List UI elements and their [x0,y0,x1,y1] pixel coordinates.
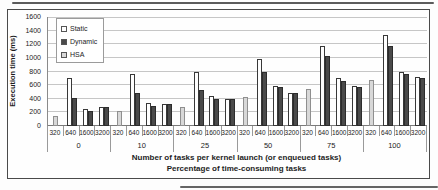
legend-item-dynamic: Dynamic [61,35,103,48]
x-slot-label: 3200 [158,128,174,138]
x-axis-caption-line2: Percentage of time-consuming tasks [47,164,426,173]
bar-10-320-hsa [117,111,122,126]
x-slot-label: 640 [252,128,268,138]
bar-100-1600-dynamic [404,74,409,126]
y-tick-label-1600: 1600 [25,13,41,21]
bar-25-3200-dynamic [230,99,235,126]
legend: StaticDynamicHSA [56,18,104,63]
x-slot-label: 1600 [205,128,221,138]
x-slot-label: 1600 [268,128,284,138]
x-slot-label: 3200 [410,128,426,138]
legend-swatch-static-icon [61,26,67,32]
x-slot-label: 3200 [94,128,110,138]
x-slot-label: 1600 [79,128,95,138]
plot-area [47,17,427,126]
y-tick-label-400: 400 [29,95,41,103]
x-slot-label: 320 [300,128,316,138]
y-tick-label-1200: 1200 [25,40,41,48]
bar-75-1600-dynamic [341,81,346,126]
x-axis-caption-line1: Number of tasks per kernel launch (or en… [47,153,426,162]
y-tick-label-600: 600 [29,81,41,89]
x-slot-label: 1600 [331,128,347,138]
bar-10-640-dynamic [135,93,140,126]
bar-50-3200-dynamic [293,93,298,126]
x-slot-label: 640 [63,128,79,138]
y-tick-label-1400: 1400 [25,27,41,35]
bar-50-320-hsa [243,97,248,126]
x-slot-label: 320 [47,128,63,138]
x-slot-label: 3200 [347,128,363,138]
bar-50-640-dynamic [262,72,267,126]
gridline-1400 [48,30,427,31]
bar-100-320-hsa [369,80,374,126]
scanned-figure: Execution time (ms) 02004006008001000120… [0,0,438,190]
bar-50-1600-dynamic [278,87,283,126]
bar-0-320-hsa [53,116,58,126]
bar-25-320-hsa [180,107,185,126]
x-slot-label: 1600 [142,128,158,138]
scan-rule-bottom [180,186,438,188]
x-slot-label: 320 [110,128,126,138]
x-slot-label: 640 [379,128,395,138]
bar-10-1600-dynamic [151,106,156,126]
bar-25-640-dynamic [199,90,204,126]
x-group-label-50: 50 [237,141,300,152]
x-slot-label: 640 [189,128,205,138]
y-tick-label-0: 0 [37,122,41,130]
bar-0-640-dynamic [72,98,77,126]
x-slot-label: 320 [173,128,189,138]
gridline-1000 [48,57,427,58]
x-group-label-0: 0 [47,141,110,152]
x-group-label-100: 100 [363,141,426,152]
x-slot-label: 320 [237,128,253,138]
x-group-label-10: 10 [110,141,173,152]
legend-swatch-hsa-icon [61,52,67,58]
legend-label-hsa: HSA [70,51,84,58]
x-slot-label: 1600 [394,128,410,138]
legend-item-hsa: HSA [61,48,103,61]
x-group-label-25: 25 [173,141,236,152]
y-axis-tick-labels: 02004006008001000120014001600 [8,17,44,126]
bar-75-640-dynamic [325,56,330,126]
x-slot-label: 3200 [284,128,300,138]
x-slot-label: 640 [315,128,331,138]
x-axis-tick-zone: 3206401600320032064016003200320640160032… [47,126,426,152]
gridline-1600 [48,17,427,18]
bar-75-3200-dynamic [357,87,362,127]
y-tick-label-1000: 1000 [25,54,41,62]
x-slot-label: 640 [126,128,142,138]
legend-label-dynamic: Dynamic [70,38,97,45]
gridline-1200 [48,43,427,44]
bar-100-3200-dynamic [420,78,425,126]
gridline-800 [48,71,427,72]
bar-25-1600-dynamic [214,99,219,126]
figure-frame: Execution time (ms) 02004006008001000120… [7,9,430,179]
x-slot-label: 320 [363,128,379,138]
legend-label-static: Static [70,25,88,32]
scan-rule-top [12,2,434,4]
bar-10-3200-dynamic [167,104,172,126]
legend-item-static: Static [61,22,103,35]
group-divider [426,126,427,152]
y-tick-label-200: 200 [29,108,41,116]
y-tick-label-800: 800 [29,68,41,76]
legend-swatch-dynamic-icon [61,39,67,45]
x-group-label-75: 75 [300,141,363,152]
bar-75-320-hsa [306,89,311,126]
bar-0-3200-dynamic [104,107,109,126]
bar-0-1600-dynamic [88,111,93,126]
x-slot-label: 3200 [221,128,237,138]
bar-100-640-dynamic [388,46,393,126]
